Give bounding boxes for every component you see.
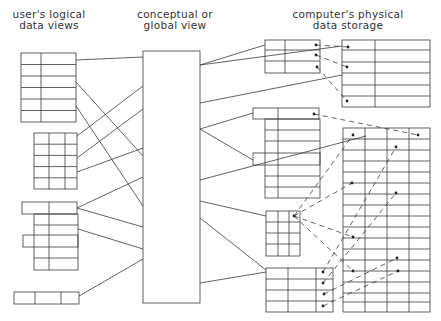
global-to-storage-connectors (200, 45, 366, 283)
diagram-canvas: user's logical data views conceptual or … (0, 0, 441, 321)
mapping-table-2 (253, 108, 320, 198)
global-view (143, 51, 200, 303)
logical-to-global-connectors (76, 57, 143, 296)
logical-view-2 (34, 133, 77, 189)
pointer-lines (294, 45, 418, 306)
mapping-table-1 (265, 40, 320, 73)
storage-block-1 (342, 40, 430, 107)
mapping-table-3 (266, 211, 300, 256)
diagram-svg (0, 0, 441, 321)
storage-block-2 (343, 128, 430, 312)
logical-view-1 (21, 53, 76, 122)
logical-view-4 (14, 292, 79, 304)
logical-view-3 (22, 202, 78, 270)
